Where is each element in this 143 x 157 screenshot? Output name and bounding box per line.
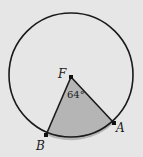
label-F: F (57, 67, 67, 81)
point-F (69, 75, 73, 79)
label-A: A (115, 121, 125, 135)
circle-diagram: F A B 64° (0, 0, 143, 157)
angle-label: 64° (67, 89, 85, 100)
point-B (44, 133, 48, 137)
label-B: B (35, 139, 45, 153)
